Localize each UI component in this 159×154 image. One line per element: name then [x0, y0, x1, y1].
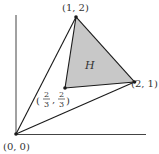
shaded-region-h [65, 17, 135, 88]
point-origin [14, 132, 18, 136]
region-label-h: H [84, 59, 95, 72]
label-point-2-3-2-3: ( 2 3 , 2 3 ) [36, 90, 70, 109]
frac-x-numerator: 2 [44, 90, 49, 99]
segment-origin-B [16, 82, 135, 134]
diagram-canvas: (1, 2) (2, 1) (0, 0) H ( 2 3 , 2 3 ) [0, 0, 159, 154]
right-paren: ) [66, 95, 70, 106]
label-point-1-2: (1, 2) [62, 2, 89, 13]
point-A [74, 15, 78, 19]
frac-y-denominator: 3 [59, 100, 64, 109]
label-origin: (0, 0) [3, 141, 30, 152]
frac-y-numerator: 2 [59, 90, 64, 99]
comma: , [52, 94, 55, 105]
label-point-2-1: (2, 1) [131, 78, 158, 89]
left-paren: ( [36, 95, 40, 106]
frac-x-denominator: 3 [44, 100, 49, 109]
